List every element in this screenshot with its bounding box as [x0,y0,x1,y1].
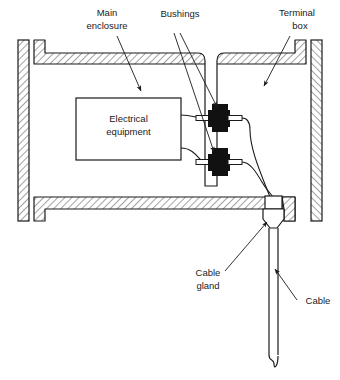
main-enclosure-label-line1: Main [97,7,118,18]
left-outer-wall [18,40,29,221]
enclosure-cross-section-diagram: Electrical equipment [0,0,340,380]
terminal-box-label-line2: box [292,20,308,31]
electrical-equipment-label-line2: equipment [106,126,151,137]
terminal-box-label-line1: Terminal [279,7,315,18]
main-enclosure-label-line2: enclosure [86,20,127,31]
cable-label: Cable [306,295,331,306]
electrical-equipment-label-line1: Electrical [109,113,148,124]
right-outer-wall [311,40,322,221]
electrical-equipment-box: Electrical equipment [76,98,181,160]
bushings-label: Bushings [160,8,199,19]
cable-gland-label-line1: Cable [196,267,221,278]
cable-gland-label-line2: gland [196,280,219,291]
diagram-canvas: Electrical equipment [0,0,340,380]
